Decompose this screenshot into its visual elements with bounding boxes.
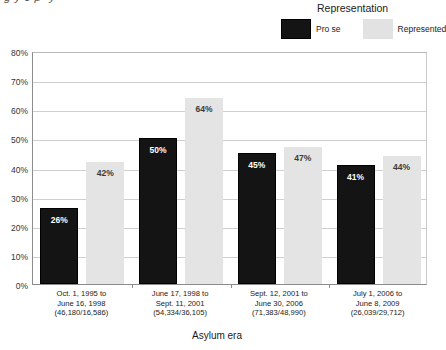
- x-axis-tick: [132, 284, 133, 288]
- bar-value-label: 47%: [284, 153, 322, 163]
- legend-title: Representation: [317, 2, 388, 14]
- gridline: [33, 140, 426, 141]
- plot-area: 0%10%20%30%40%50%60%70%80%26%42%50%64%45…: [32, 52, 427, 285]
- x-axis-category-line: (54,334/36,105): [131, 308, 230, 318]
- bar-value-label: 41%: [338, 172, 374, 182]
- x-axis-category-line: (71,383/48,990): [230, 308, 329, 318]
- y-axis-tick-label: 40%: [11, 165, 28, 175]
- y-axis-tick-label: 30%: [11, 194, 28, 204]
- bar-value-label: 26%: [41, 215, 77, 225]
- bar-pro-se: 50%: [139, 138, 177, 284]
- x-axis-category-line: June 16, 1998: [32, 299, 131, 309]
- legend-label-pro-se: Pro se: [316, 24, 341, 34]
- y-axis-tick-label: 80%: [11, 48, 28, 58]
- x-axis-category-line: (26,039/29,712): [328, 308, 427, 318]
- x-axis-category-labels: Oct. 1, 1995 toJune 16, 1998(46,180/16,5…: [32, 289, 427, 329]
- x-axis-category-line: June 30, 2006: [230, 299, 329, 309]
- y-axis-tick-label: 0%: [16, 281, 28, 291]
- y-axis-tick-label: 10%: [11, 252, 28, 262]
- x-axis-category-line: (46,180/16,586): [32, 308, 131, 318]
- x-axis-category-line: Oct. 1, 1995 to: [32, 289, 131, 299]
- bar-pro-se: 45%: [238, 153, 276, 284]
- chart-title-clipped: -g-y-J-p--y-: [0, 0, 300, 5]
- y-axis-tick-label: 60%: [11, 106, 28, 116]
- bar-represented: 64%: [185, 98, 223, 284]
- bar-value-label: 45%: [239, 160, 275, 170]
- gridline: [33, 82, 426, 83]
- x-axis-title: Asylum era: [0, 330, 434, 341]
- bar-pro-se: 41%: [337, 165, 375, 284]
- bar-pro-se: 26%: [40, 208, 78, 284]
- y-axis-tick-label: 50%: [11, 135, 28, 145]
- x-axis-category-label: Sept. 12, 2001 toJune 30, 2006(71,383/48…: [230, 289, 329, 318]
- bar-represented: 47%: [284, 147, 322, 284]
- bar-value-label: 50%: [140, 145, 176, 155]
- bar-value-label: 42%: [86, 168, 124, 178]
- x-axis-category-line: July 1, 2006 to: [328, 289, 427, 299]
- bar-represented: 44%: [383, 156, 421, 284]
- x-axis-tick: [329, 284, 330, 288]
- x-axis-category-line: Sept. 11, 2001: [131, 299, 230, 309]
- x-axis-category-label: Oct. 1, 1995 toJune 16, 1998(46,180/16,5…: [32, 289, 131, 318]
- x-axis-tick: [231, 284, 232, 288]
- bar-value-label: 44%: [383, 162, 421, 172]
- x-axis-category-line: Sept. 12, 2001 to: [230, 289, 329, 299]
- x-axis-category-label: July 1, 2006 toJune 8, 2009(26,039/29,71…: [328, 289, 427, 318]
- x-axis-category-line: June 17, 1998 to: [131, 289, 230, 299]
- x-axis-category-label: June 17, 1998 toSept. 11, 2001(54,334/36…: [131, 289, 230, 318]
- chart-legend: Representation Pro se Represented: [281, 2, 434, 42]
- chart-title-text: -g-y-J-p--y-: [0, 0, 300, 3]
- x-axis-category-line: June 8, 2009: [328, 299, 427, 309]
- gridline: [33, 111, 426, 112]
- bar-value-label: 64%: [185, 104, 223, 114]
- y-axis-tick-label: 20%: [11, 223, 28, 233]
- legend-label-represented: Represented: [398, 24, 446, 34]
- legend-swatch-pro-se: [281, 19, 311, 39]
- y-axis-tick-label: 70%: [11, 77, 28, 87]
- bar-represented: 42%: [86, 162, 124, 284]
- legend-swatch-represented: [363, 19, 393, 39]
- legend-items: Pro se Represented: [281, 19, 446, 39]
